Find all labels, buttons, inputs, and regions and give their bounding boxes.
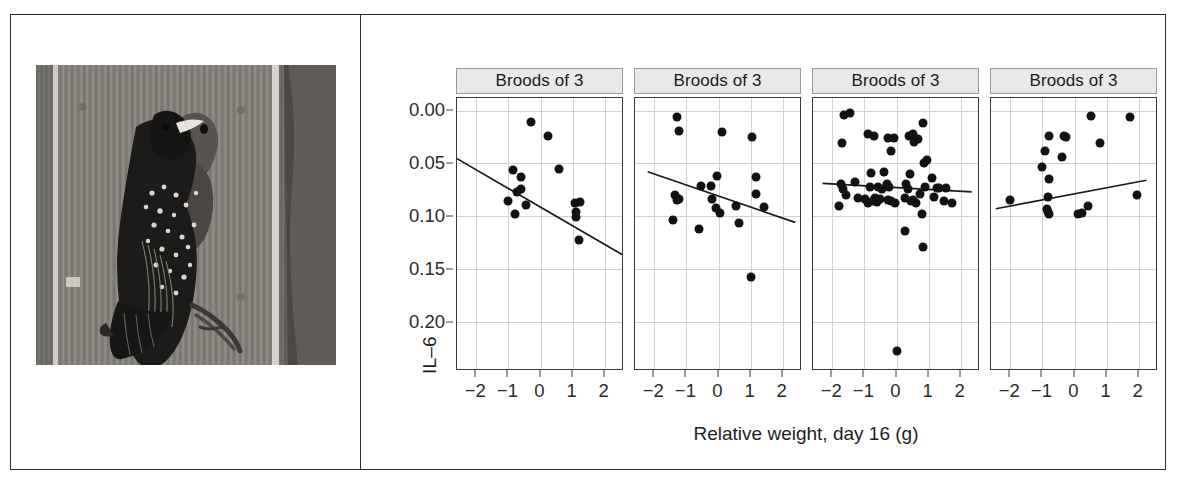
data-point	[1038, 162, 1047, 171]
plot-area	[456, 97, 623, 370]
data-point	[1057, 153, 1066, 162]
data-point	[748, 133, 757, 142]
data-point	[668, 216, 677, 225]
x-tick-mark	[831, 370, 832, 377]
x-tick-mark	[781, 370, 782, 377]
x-tick-mark	[1105, 370, 1106, 377]
data-point	[732, 201, 741, 210]
y-tick-label: 0.05	[409, 152, 445, 174]
data-point	[900, 226, 909, 235]
x-tick-label: −2	[821, 380, 842, 402]
x-tick-label: −1	[1031, 380, 1052, 402]
data-point	[752, 189, 761, 198]
data-point	[746, 273, 755, 282]
data-point	[752, 173, 761, 182]
y-tick-label: 0.15	[409, 258, 445, 280]
y-tick-label: 0.20	[409, 311, 445, 333]
facet-strip-label: Broods of 3	[990, 68, 1157, 94]
data-point	[880, 167, 889, 176]
data-point	[526, 118, 535, 127]
photo-pane	[11, 15, 360, 469]
x-tick-label: 0	[712, 380, 722, 402]
data-point	[887, 146, 896, 155]
data-point	[717, 127, 726, 136]
x-tick-label: 1	[922, 380, 932, 402]
x-tick-mark	[1137, 370, 1138, 377]
plot-area	[990, 97, 1157, 370]
data-point	[672, 112, 681, 121]
x-tick-mark	[863, 370, 864, 377]
data-point	[572, 213, 581, 222]
data-point	[890, 199, 899, 208]
x-tick-label: −1	[497, 380, 518, 402]
facet-panel-1: Broods of 3−2−1012	[456, 15, 623, 469]
x-tick-mark	[717, 370, 718, 377]
data-point	[707, 181, 716, 190]
data-point	[867, 168, 876, 177]
x-tick-label: 0	[534, 380, 544, 402]
x-tick-mark	[1009, 370, 1010, 377]
regression-line	[991, 98, 1156, 369]
y-tick-mark	[446, 215, 453, 216]
data-point	[1044, 175, 1053, 184]
x-tick-mark	[507, 370, 508, 377]
data-point	[835, 201, 844, 210]
regression-line	[457, 98, 622, 369]
data-point	[850, 178, 859, 187]
data-point	[1044, 131, 1053, 140]
data-point	[889, 134, 898, 143]
data-point	[1077, 208, 1086, 217]
x-tick-mark	[685, 370, 686, 377]
data-point	[1006, 196, 1015, 205]
data-point	[927, 174, 936, 183]
data-point	[1087, 111, 1096, 120]
x-tick-mark	[749, 370, 750, 377]
x-tick-label: −1	[853, 380, 874, 402]
x-tick-mark	[959, 370, 960, 377]
x-tick-label: 0	[1068, 380, 1078, 402]
y-tick-label: 0.00	[409, 99, 445, 121]
regression-line	[635, 98, 800, 369]
x-tick-label: 2	[599, 380, 609, 402]
data-point	[1061, 133, 1070, 142]
data-point	[905, 169, 914, 178]
data-point	[841, 191, 850, 200]
data-point	[716, 208, 725, 217]
data-point	[903, 184, 912, 193]
y-axis-ticks: 0.000.050.100.150.20	[387, 15, 453, 469]
data-point	[918, 209, 927, 218]
x-tick-mark	[927, 370, 928, 377]
data-point	[575, 198, 584, 207]
figure-page: IL–6 0.000.050.100.150.20 Broods of 3−2−…	[0, 0, 1178, 485]
y-tick-mark	[446, 269, 453, 270]
x-tick-mark	[1073, 370, 1074, 377]
x-tick-label: −1	[675, 380, 696, 402]
facet-strip-label: Broods of 3	[634, 68, 801, 94]
x-axis: −2−1012	[812, 370, 979, 410]
data-point	[1040, 146, 1049, 155]
data-point	[1133, 191, 1142, 200]
data-point	[696, 181, 705, 190]
data-point	[694, 224, 703, 233]
facet-strip-label: Broods of 3	[456, 68, 623, 94]
facet-panel-3: Broods of 3−2−1012	[812, 15, 979, 469]
y-tick-mark	[446, 162, 453, 163]
data-point	[947, 199, 956, 208]
data-point	[575, 236, 584, 245]
x-tick-label: 2	[1133, 380, 1143, 402]
x-tick-label: −2	[999, 380, 1020, 402]
x-axis: −2−1012	[456, 370, 623, 410]
x-axis: −2−1012	[990, 370, 1157, 410]
data-point	[885, 182, 894, 191]
x-axis-label: Relative weight, day 16 (g)	[456, 423, 1156, 445]
data-point	[511, 209, 520, 218]
x-tick-label: 0	[890, 380, 900, 402]
x-tick-mark	[653, 370, 654, 377]
data-point	[942, 183, 951, 192]
data-point	[918, 119, 927, 128]
data-point	[845, 108, 854, 117]
y-tick-mark	[446, 109, 453, 110]
y-tick-label: 0.10	[409, 205, 445, 227]
data-point	[516, 184, 525, 193]
data-point	[1095, 139, 1104, 148]
